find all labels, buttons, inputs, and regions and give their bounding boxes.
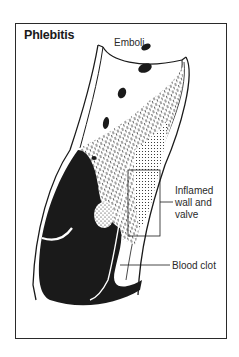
vein-illustration: [0, 0, 239, 357]
label-blood-clot: Blood clot: [172, 260, 216, 272]
label-inflamed-wall-and-valve: Inflamed wall and valve: [175, 185, 225, 221]
figure-title: Phlebitis: [24, 28, 74, 42]
label-emboli: Emboli: [114, 37, 145, 49]
